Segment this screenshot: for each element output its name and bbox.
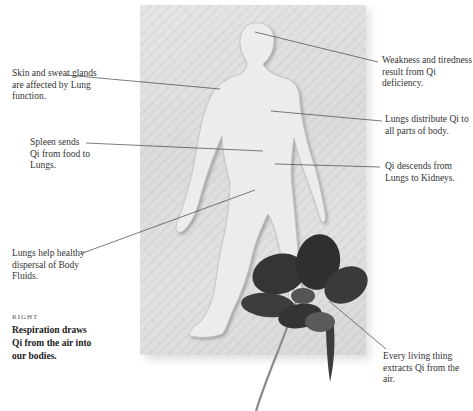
label-skin: Skin and sweat glands are affected by Lu… — [12, 68, 102, 103]
label-fluids: Lungs help healthy dispersal of Body Flu… — [12, 248, 97, 283]
label-descends: Qi descends from Lungs to Kidneys. — [385, 161, 465, 184]
label-spleen: Spleen sends Qi from food to Lungs. — [30, 137, 90, 172]
caption-kicker: RIGHT — [12, 313, 38, 321]
label-distribute: Lungs distribute Qi to all parts of body… — [385, 114, 470, 137]
label-weakness: Weakness and tiredness result from Qi de… — [382, 55, 472, 90]
caption-text: Respiration draws Qi from the air into o… — [12, 324, 92, 363]
violet-flower — [240, 231, 374, 411]
label-every: Every living thing extracts Qi from the … — [383, 351, 473, 386]
